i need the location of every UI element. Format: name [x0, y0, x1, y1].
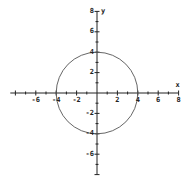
x-tick-label: -6	[32, 97, 40, 104]
y-tick-label: 8	[90, 8, 94, 15]
y-axis-label: y	[101, 8, 105, 15]
y-tick-label: -4	[86, 130, 94, 137]
x-tick-label: 4	[136, 97, 140, 104]
axes	[10, 11, 178, 174]
x-tick-label: -4	[52, 97, 60, 104]
y-tick-label: 6	[90, 28, 94, 35]
x-tick-label: 8	[177, 97, 181, 104]
y-tick-label: 4	[90, 49, 94, 56]
x-tick-label: 2	[115, 97, 119, 104]
y-tick-label: -2	[86, 110, 94, 117]
x-tick-label: 6	[156, 97, 160, 104]
x-tick-label: -2	[72, 97, 80, 104]
y-tick-label: 2	[90, 69, 94, 76]
y-tick-label: -6	[86, 151, 94, 158]
x-axis-label: x	[176, 82, 180, 89]
circle-graph	[0, 0, 193, 179]
